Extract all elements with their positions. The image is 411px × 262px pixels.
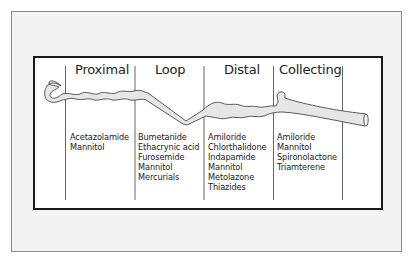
- drug-item: Acetazolamide: [70, 132, 129, 142]
- drug-list-collecting: Amiloride Mannitol Spironolactone Triamt…: [277, 132, 337, 172]
- drug-item: Mannitol: [70, 142, 129, 152]
- drug-item: Spironolactone: [277, 152, 337, 162]
- drug-item: Thiazides: [208, 182, 267, 192]
- drug-item: Metolazone: [208, 172, 267, 182]
- segment-header-loop: Loop: [155, 62, 185, 77]
- segment-header-collecting: Collecting: [279, 62, 342, 77]
- drug-item: Chlorthalidone: [208, 142, 267, 152]
- drug-item: Indapamide: [208, 152, 267, 162]
- nephron-illustration: [0, 0, 411, 262]
- drug-item: Mannitol: [277, 142, 337, 152]
- drug-item: Ethacrynic acid: [138, 142, 199, 152]
- tubule-icon: [45, 81, 369, 126]
- segment-header-distal: Distal: [224, 62, 260, 77]
- drug-list-proximal: Acetazolamide Mannitol: [70, 132, 129, 152]
- drug-item: Mannitol: [208, 162, 267, 172]
- drug-list-distal: Amiloride Chlorthalidone Indapamide Mann…: [208, 132, 267, 192]
- drug-item: Triamterene: [277, 162, 337, 172]
- drug-list-loop: Bumetanide Ethacrynic acid Furosemide Ma…: [138, 132, 199, 182]
- drug-item: Furosemide: [138, 152, 199, 162]
- drug-item: Amiloride: [277, 132, 337, 142]
- drug-item: Bumetanide: [138, 132, 199, 142]
- drug-item: Amiloride: [208, 132, 267, 142]
- segment-header-proximal: Proximal: [75, 62, 129, 77]
- drug-item: Mercurials: [138, 172, 199, 182]
- drug-item: Mannitol: [138, 162, 199, 172]
